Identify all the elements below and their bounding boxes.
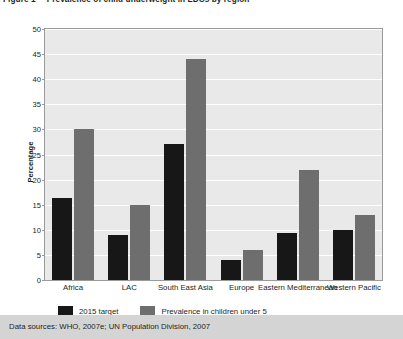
y-tick-label-10: 10 [33,225,41,234]
bar [277,233,297,280]
bar-group [157,29,213,280]
bar [243,250,263,280]
chart-card: Percentage 05101520253035404550 AfricaLA… [0,9,403,315]
source-band: Data sources: WHO, 2007e; UN Population … [0,315,403,339]
y-tick-label-45: 45 [33,50,41,59]
x-axis-labels: AfricaLACSouth East AsiaEuropeEastern Me… [44,283,383,305]
y-tick-label-50: 50 [33,25,41,34]
bar [186,59,206,280]
bar [74,129,94,280]
y-tick-label-5: 5 [37,250,41,259]
figure-number: Figure 1 [3,0,36,4]
x-axis-label: Western Pacific [313,283,395,293]
bar [355,215,375,280]
plot-inner: 05101520253035404550 [45,29,382,280]
bar [299,170,319,280]
bar [333,230,353,280]
bar-group [270,29,326,280]
y-tick-label-25: 25 [33,150,41,159]
bar [52,198,72,280]
bar [164,144,184,280]
bar-group [45,29,101,280]
figure-caption: Figure 1Prevalence of child underweight … [3,0,249,7]
y-tick-label-40: 40 [33,75,41,84]
y-tick-label-20: 20 [33,175,41,184]
bar-group [101,29,157,280]
bar-group [326,29,382,280]
y-tick-label-30: 30 [33,125,41,134]
source-text: Data sources: WHO, 2007e; UN Population … [9,322,210,331]
y-tick-label-35: 35 [33,100,41,109]
bar [221,260,241,280]
gridline-0 [45,280,382,281]
plot-area: 05101520253035404550 [44,28,383,281]
bar [130,205,150,280]
y-tick-mark-0 [42,280,45,281]
y-tick-label-15: 15 [33,200,41,209]
bar-group [214,29,270,280]
bar [108,235,128,280]
figure-title: Prevalence of child underweight in LDCs … [47,0,250,4]
